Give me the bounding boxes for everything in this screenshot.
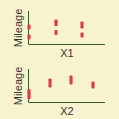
strip-charts: Mileage X1 Mileage X2 <box>0 0 119 119</box>
data-point <box>28 36 31 39</box>
data-point <box>28 96 31 99</box>
data-point <box>55 23 58 26</box>
data-point <box>81 35 84 38</box>
data-point <box>92 85 95 88</box>
data-point <box>81 26 84 29</box>
x-axis-label-2: X2 <box>60 105 73 117</box>
y-axis-label-2: Mileage <box>12 67 24 106</box>
x-axis-label-1: X1 <box>60 47 73 59</box>
points-1 <box>28 19 84 39</box>
chart-1: Mileage X1 <box>12 9 105 59</box>
data-point <box>55 32 58 35</box>
points-2 <box>28 76 95 100</box>
data-point <box>28 27 31 30</box>
chart-2: Mileage X2 <box>12 67 105 117</box>
data-point <box>70 82 73 85</box>
data-point <box>49 85 52 88</box>
y-axis-label-1: Mileage <box>12 9 24 48</box>
